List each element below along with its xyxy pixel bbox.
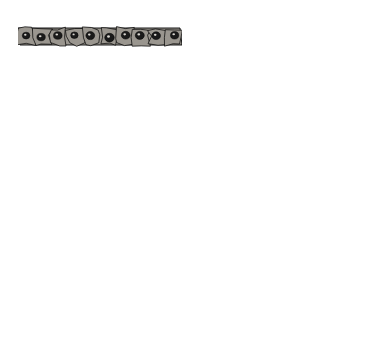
epidermis-development-figure xyxy=(0,0,375,359)
histology-drawing xyxy=(16,14,183,88)
figure-canvas xyxy=(0,0,375,359)
panel-a-content xyxy=(16,14,183,88)
